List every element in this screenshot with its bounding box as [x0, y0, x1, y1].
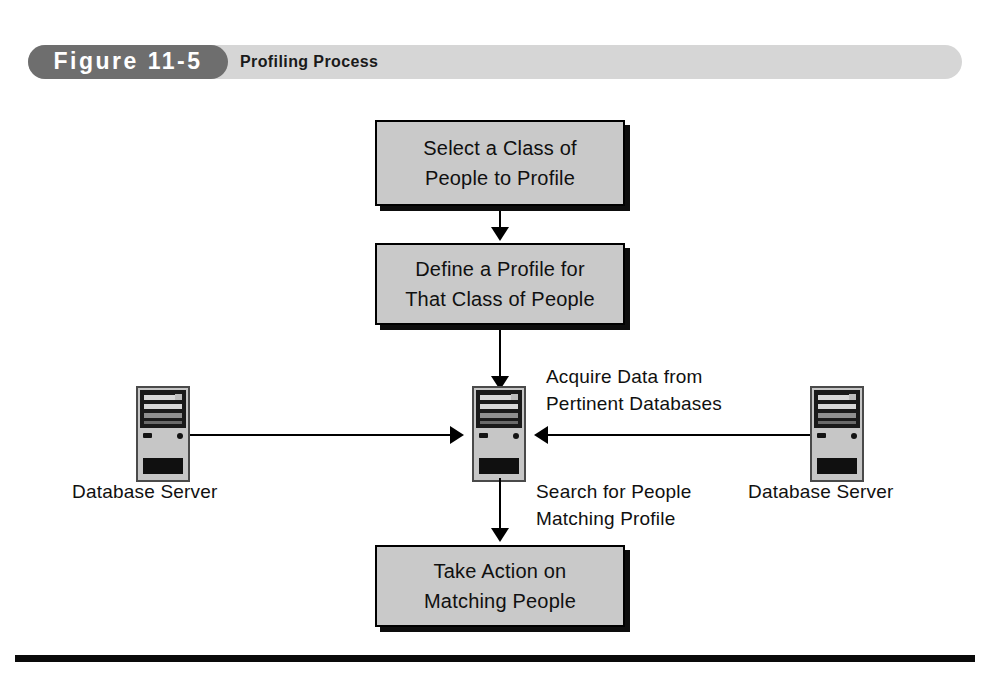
arrow-down-icon — [491, 528, 509, 542]
server-drive-bay — [144, 404, 182, 409]
server-drive-bay — [480, 421, 518, 424]
process-box-select-class-line2: People to Profile — [425, 163, 575, 193]
figure-number-pill: Figure 11-5 — [28, 45, 228, 79]
server-drive-bay — [480, 413, 518, 418]
server-corner-dot — [849, 394, 856, 400]
server-drive-bay-block — [814, 390, 860, 428]
server-tower-icon-center — [472, 386, 526, 482]
bottom-divider-rule — [15, 655, 975, 662]
annotation-search-people-line1: Search for People — [536, 478, 692, 505]
annotation-acquire-data: Acquire Data from Pertinent Databases — [546, 363, 722, 417]
arrow-right-icon — [450, 426, 464, 444]
label-database-server-right: Database Server — [748, 478, 894, 505]
annotation-search-people-line2: Matching Profile — [536, 505, 692, 532]
process-box-select-class-line1: Select a Class of — [423, 133, 576, 163]
process-box-define-profile-line2: That Class of People — [405, 284, 595, 314]
arrow-down-icon — [491, 227, 509, 241]
annotation-acquire-data-line2: Pertinent Databases — [546, 390, 722, 417]
connector-left-server-to-center — [190, 434, 452, 436]
process-box-take-action-line1: Take Action on — [434, 556, 567, 586]
figure-caption-banner: Figure 11-5 Profiling Process — [28, 45, 962, 79]
figure-title: Profiling Process — [240, 45, 378, 79]
process-box-select-class: Select a Class of People to Profile — [375, 120, 625, 206]
server-tower-icon-left — [136, 386, 190, 482]
server-corner-dot — [175, 394, 182, 400]
arrow-left-icon — [534, 426, 548, 444]
server-led-right — [177, 433, 183, 439]
label-database-server-left: Database Server — [72, 478, 218, 505]
annotation-acquire-data-line1: Acquire Data from — [546, 363, 722, 390]
connector-define-to-server — [499, 330, 501, 378]
server-led-right — [851, 433, 857, 439]
server-base-panel — [143, 458, 183, 474]
server-drive-bay — [818, 404, 856, 409]
process-box-define-profile: Define a Profile for That Class of Peopl… — [375, 243, 625, 325]
process-box-define-profile-line1: Define a Profile for — [415, 254, 585, 284]
process-box-take-action: Take Action on Matching People — [375, 545, 625, 627]
server-drive-bay — [818, 421, 856, 424]
annotation-search-people: Search for People Matching Profile — [536, 478, 692, 532]
connector-server-to-action — [499, 478, 501, 530]
server-tower-icon-right — [810, 386, 864, 482]
server-base-panel — [817, 458, 857, 474]
server-led-left — [143, 433, 152, 438]
server-led-left — [817, 433, 826, 438]
server-drive-bay — [144, 421, 182, 424]
server-corner-dot — [511, 394, 518, 400]
server-led-left — [479, 433, 488, 438]
connector-right-server-to-center — [548, 434, 810, 436]
server-drive-bay — [144, 413, 182, 418]
server-drive-bay — [818, 413, 856, 418]
server-led-right — [513, 433, 519, 439]
server-base-panel — [479, 458, 519, 474]
server-drive-bay-block — [476, 390, 522, 428]
server-drive-bay — [480, 404, 518, 409]
process-box-take-action-line2: Matching People — [424, 586, 576, 616]
figure-number-label: Figure 11-5 — [28, 45, 228, 79]
server-drive-bay-block — [140, 390, 186, 428]
